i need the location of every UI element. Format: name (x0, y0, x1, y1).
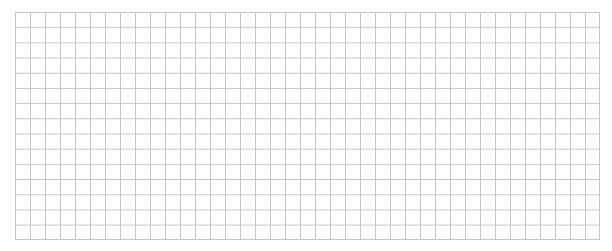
grid-paper (15, 12, 600, 240)
